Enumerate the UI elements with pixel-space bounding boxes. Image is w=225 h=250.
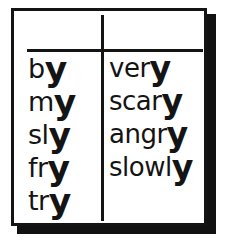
word-ending-y: y bbox=[172, 148, 193, 187]
word-item: by bbox=[28, 52, 101, 85]
word-ending-y: y bbox=[49, 181, 71, 221]
left-column: by my sly fry try bbox=[14, 52, 101, 221]
word-stem: m bbox=[28, 86, 54, 117]
right-column: very scary angry slowly bbox=[101, 52, 204, 221]
word-item: angry bbox=[109, 118, 204, 151]
word-stem: ver bbox=[109, 53, 150, 83]
word-stem: slowl bbox=[109, 152, 172, 182]
word-stem: fr bbox=[28, 152, 48, 183]
word-stem: tr bbox=[28, 185, 49, 216]
word-stem: sl bbox=[28, 119, 49, 150]
word-item: my bbox=[28, 85, 101, 118]
word-item: very bbox=[109, 52, 204, 85]
word-item: fry bbox=[28, 151, 101, 184]
word-columns: by my sly fry try very bbox=[14, 52, 204, 221]
worksheet: by my sly fry try very bbox=[0, 0, 225, 250]
word-item: slowly bbox=[109, 151, 204, 184]
word-item: try bbox=[28, 184, 101, 217]
chart-frame: by my sly fry try very bbox=[11, 8, 207, 226]
word-item: scary bbox=[109, 85, 204, 118]
word-item: sly bbox=[28, 118, 101, 151]
word-stem: b bbox=[28, 53, 45, 84]
word-stem: scar bbox=[109, 86, 161, 116]
word-stem: angr bbox=[109, 119, 167, 149]
